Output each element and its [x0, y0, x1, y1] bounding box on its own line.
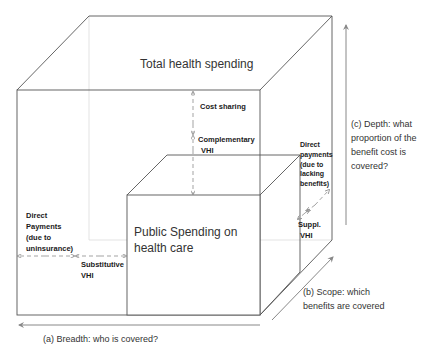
- total-health-spending-label: Total health spending: [140, 57, 253, 71]
- public-spending-label: Public Spending on health care: [134, 224, 237, 256]
- cost-sharing-label: Cost sharing: [200, 102, 246, 113]
- direct-payments-uninsurance-label: Direct Payments (due to uninsurance): [26, 211, 73, 255]
- substitutive-vhi-label: Substitutive VHI: [81, 260, 124, 282]
- complementary-vhi-label: Complementary VHI: [198, 135, 255, 157]
- breadth-axis-label: (a) Breadth: who is covered?: [43, 333, 158, 347]
- depth-axis-label: (c) Depth: what proportion of the benefi…: [351, 118, 417, 174]
- direct-payments-lacking-label: Direct payments (due to lacking benefits…: [300, 140, 333, 189]
- scope-axis-label: (b) Scope: which benefits are covered: [303, 286, 385, 314]
- suppl-vhi-label: Suppl. VHI: [298, 220, 321, 242]
